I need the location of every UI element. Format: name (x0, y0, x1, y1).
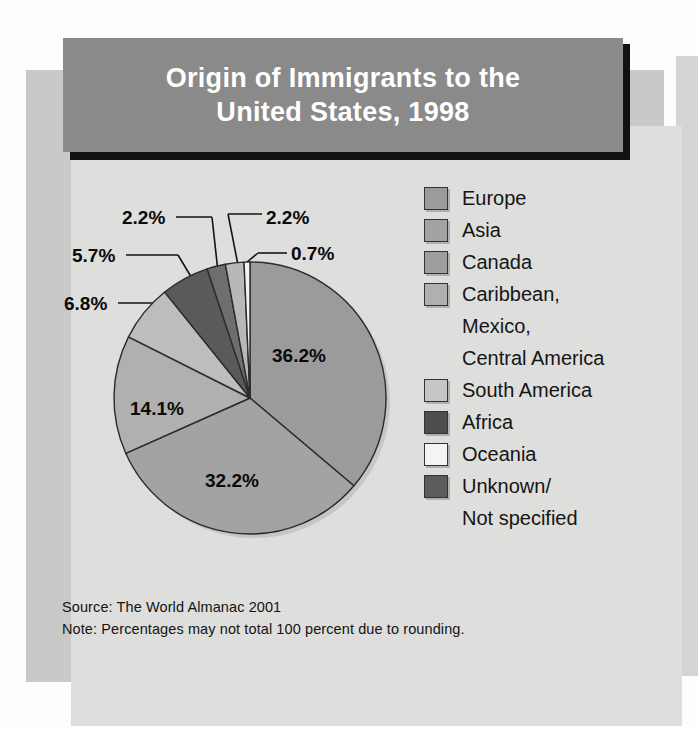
legend-item-label: Africa (462, 407, 513, 437)
legend-item[interactable]: Mexico, (424, 311, 639, 341)
source-text: Source: The World Almanac 2001 (62, 596, 582, 618)
legend-item[interactable]: Central America (424, 343, 639, 373)
legend-item[interactable]: Africa (424, 407, 639, 437)
callout-label-south-america: 6.8% (64, 293, 107, 315)
title-banner: Origin of Immigrants to the United State… (63, 38, 623, 152)
legend-swatch-spacer (424, 315, 448, 338)
callout-label-oceania: 0.7% (291, 243, 334, 265)
legend-item-label: Canada (462, 247, 532, 277)
legend-swatch (424, 251, 448, 274)
legend-swatch (424, 283, 448, 306)
slice-label-europe: 36.2% (272, 345, 326, 367)
legend-item-label: Oceania (462, 439, 537, 469)
legend-swatch-spacer (424, 507, 448, 530)
callout-label-unknown: 2.2% (122, 207, 165, 229)
note-text: Note: Percentages may not total 100 perc… (62, 618, 582, 640)
legend-item[interactable]: South America (424, 375, 639, 405)
legend-item-label: Caribbean, (462, 279, 560, 309)
legend-item-label: South America (462, 375, 592, 405)
legend-item-label: Unknown/ (462, 471, 551, 501)
legend-item-label: Not specified (462, 503, 578, 533)
legend-swatch-spacer (424, 347, 448, 370)
legend-swatch (424, 219, 448, 242)
legend-item[interactable]: Unknown/ (424, 471, 639, 501)
callout-label-africa: 5.7% (72, 245, 115, 267)
page-background: Origin of Immigrants to the United State… (0, 0, 698, 729)
legend-item[interactable]: Not specified (424, 503, 639, 533)
slice-label-asia: 32.2% (205, 470, 259, 492)
legend-item[interactable]: Caribbean, (424, 279, 639, 309)
legend: EuropeAsiaCanadaCaribbean,Mexico,Central… (424, 183, 639, 535)
legend-item[interactable]: Asia (424, 215, 639, 245)
legend-item-label: Asia (462, 215, 501, 245)
legend-swatch (424, 187, 448, 210)
legend-swatch (424, 443, 448, 466)
legend-item[interactable]: Europe (424, 183, 639, 213)
callout-label-canada: 2.2% (266, 207, 309, 229)
legend-item[interactable]: Oceania (424, 439, 639, 469)
legend-item-label: Mexico, (462, 311, 531, 341)
footnotes: Source: The World Almanac 2001 Note: Per… (62, 596, 582, 640)
legend-swatch (424, 475, 448, 498)
legend-item[interactable]: Canada (424, 247, 639, 277)
chart-title: Origin of Immigrants to the United State… (148, 61, 539, 129)
legend-item-label: Central America (462, 343, 604, 373)
legend-item-label: Europe (462, 183, 527, 213)
legend-swatch (424, 411, 448, 434)
legend-swatch (424, 379, 448, 402)
slice-label-caribbean-mexico-central-america: 14.1% (130, 398, 184, 420)
